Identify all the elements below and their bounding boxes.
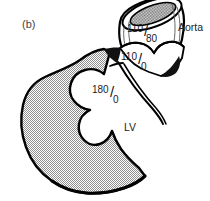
aortic-pressure-systolic: 110 [127, 23, 143, 34]
lv-label: LV [124, 121, 136, 133]
diagram-canvas: (b) Aorta LV 110 / 80 110 / 0 180 / 0 [0, 0, 210, 201]
cardiac-diagram-figure: (b) Aorta LV 110 / 80 110 / 0 180 / 0 [0, 0, 210, 201]
valve-pressure-systolic: 110 [121, 51, 137, 62]
aortic-pressure-diastolic: 80 [146, 33, 158, 44]
panel-label: (b) [22, 18, 35, 30]
aorta-label: Aorta [178, 21, 203, 33]
ventricular-pressure-diastolic: 0 [113, 94, 119, 105]
ventricular-pressure-annotation: 180 / 0 [92, 83, 119, 105]
ventricular-pressure-systolic: 180 [92, 84, 109, 95]
valve-pressure-diastolic: 0 [141, 61, 147, 72]
